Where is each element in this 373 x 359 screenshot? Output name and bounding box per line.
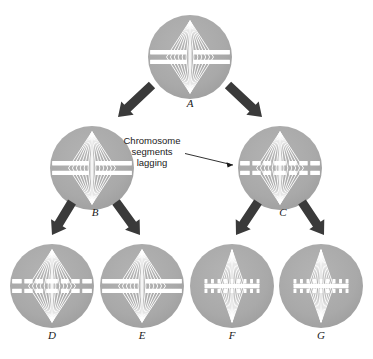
- spindle-fiber: [118, 250, 142, 322]
- spindle-fiber: [268, 132, 280, 204]
- chromosome-dot: [237, 289, 240, 293]
- spindle-fiber: [280, 132, 296, 204]
- arrow-c-to-f: [236, 199, 262, 235]
- chromosome-fragment: [274, 161, 286, 165]
- spindle-fiber: [232, 250, 235, 322]
- chromosome-fragment: [24, 279, 32, 283]
- chromosome-dot: [339, 289, 342, 293]
- cell-label-a: A: [170, 98, 210, 109]
- chromosome-dot: [333, 289, 336, 293]
- spindle-fiber: [308, 250, 321, 322]
- chromosome-dot: [224, 279, 227, 283]
- spindle-fiber: [264, 132, 280, 204]
- spindle-fiber: [186, 21, 190, 93]
- chromosome-fragment: [46, 279, 58, 283]
- spindle-fiber: [92, 132, 96, 204]
- spindle-fiber: [311, 250, 321, 322]
- spindle-fiber: [142, 250, 154, 322]
- spindle-fiber: [40, 250, 52, 322]
- spindle-fiber: [219, 250, 232, 322]
- spindle-fiber: [316, 250, 321, 322]
- chromosome-fragment: [12, 279, 22, 283]
- spindle-fiber: [232, 250, 237, 322]
- chromosome-fragment: [61, 279, 69, 283]
- chromosome-fragment: [61, 289, 69, 293]
- spindle-fiber: [88, 132, 92, 204]
- chromosome-dot: [224, 289, 227, 293]
- cell-label-b: B: [75, 207, 115, 218]
- spindle-fiber: [272, 132, 280, 204]
- annotation-arrowhead: [227, 162, 234, 167]
- chromosome-dot: [346, 279, 349, 283]
- cells-layer: [0, 0, 373, 359]
- chromosome-dot: [231, 279, 234, 283]
- chromosome-band: [102, 279, 139, 283]
- chromosome-band: [145, 279, 182, 283]
- annotation-leader-layer: [0, 0, 373, 359]
- cell-e: [100, 244, 184, 328]
- figure-canvas: Chromosome segments lagging A B C D E F …: [0, 0, 373, 359]
- spindle-fiber: [68, 132, 92, 204]
- spindle-fiber: [142, 250, 146, 322]
- chromosome-fragment: [82, 279, 92, 283]
- spindle-fiber: [318, 250, 321, 322]
- spindle-fiber: [52, 250, 60, 322]
- spindle-fiber: [36, 250, 52, 322]
- cell-body-f: [190, 244, 274, 328]
- chromosome-fragment: [299, 171, 307, 175]
- chromosome-dot: [237, 279, 240, 283]
- spindle-fiber: [142, 250, 158, 322]
- spindle-fiber: [190, 21, 198, 93]
- arrow-a-to-b: [118, 82, 155, 117]
- chromosome-band: [95, 171, 132, 175]
- chromosome-band: [52, 171, 89, 175]
- spindle-fiber: [52, 250, 64, 322]
- chromosome-dot: [231, 289, 234, 293]
- cell-c: [238, 126, 322, 210]
- chromosome-fragment: [240, 161, 250, 165]
- chromosome-dot: [313, 289, 316, 293]
- chromosome-dot: [218, 279, 221, 283]
- spindle-fiber: [190, 21, 210, 93]
- spindle-fiber: [280, 132, 304, 204]
- chromosome-dot: [244, 279, 247, 283]
- spindle-fiber: [92, 132, 100, 204]
- chromosome-fragment: [240, 171, 250, 175]
- chromosome-dot: [307, 289, 310, 293]
- chromosome-dot: [211, 279, 214, 283]
- chromosome-band: [193, 60, 230, 64]
- chromosome-dot: [300, 279, 303, 283]
- chromosome-dot: [333, 279, 336, 283]
- chromosome-fragment: [310, 171, 320, 175]
- spindle-fiber: [313, 250, 321, 322]
- chromosome-fragment: [252, 161, 260, 165]
- chromosome-midline: [204, 284, 259, 288]
- chromosome-dot: [339, 279, 342, 283]
- chromosome-fragment: [263, 161, 271, 165]
- cell-body-c: [238, 126, 322, 210]
- spindle-fiber: [170, 21, 190, 93]
- spindle-fiber: [178, 21, 190, 93]
- annotation-chromosome-segments-lagging: Chromosome segments lagging: [118, 135, 186, 169]
- annotation-line-3: lagging: [118, 157, 186, 168]
- spindle-fiber: [142, 250, 150, 322]
- spindle-fiber: [52, 250, 68, 322]
- chromosome-fragment: [12, 289, 22, 293]
- chromosome-band: [193, 50, 230, 54]
- spindle-fiber: [28, 250, 52, 322]
- chromosome-dot: [250, 289, 253, 293]
- chromosome-dot: [320, 279, 323, 283]
- cell-g: [279, 244, 363, 328]
- spindle-fiber: [280, 132, 300, 204]
- cell-label-c: C: [263, 207, 303, 218]
- spindle-fiber: [72, 132, 92, 204]
- chromosome-fragment: [252, 171, 260, 175]
- arrow-b-to-d: [51, 200, 76, 235]
- cell-body-d: [10, 244, 94, 328]
- spindle-fiber: [44, 250, 52, 322]
- cell-f: [190, 244, 274, 328]
- cell-body-e: [100, 244, 184, 328]
- spindle-body: [90, 147, 95, 189]
- cell-body-g: [279, 244, 363, 328]
- spindle-fiber: [190, 21, 202, 93]
